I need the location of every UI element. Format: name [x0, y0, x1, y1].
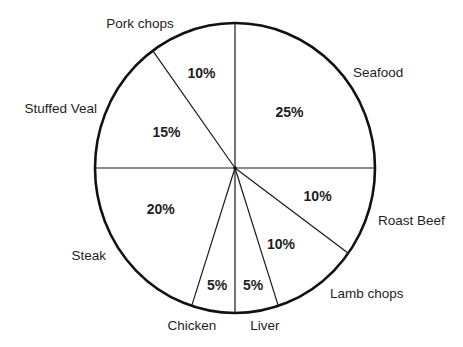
percent-label-pork-chops: 10% [187, 65, 216, 81]
percent-label-steak: 20% [147, 201, 176, 217]
center-point [233, 166, 237, 170]
percent-label-chicken: 5% [207, 277, 228, 293]
category-label-liver: Liver [250, 318, 280, 333]
category-label-chicken: Chicken [168, 318, 217, 333]
category-label-stuffed-veal: Stuffed Veal [24, 101, 97, 116]
pie-chart: 25%10%10%5%5%20%15%10% SeafoodRoast Beef… [0, 0, 463, 347]
percent-label-liver: 5% [243, 277, 264, 293]
percent-label-seafood: 25% [275, 104, 304, 120]
category-label-pork-chops: Pork chops [106, 16, 174, 31]
category-label-lamb-chops: Lamb chops [330, 286, 404, 301]
percent-label-roast-beef: 10% [304, 188, 333, 204]
category-label-roast-beef: Roast Beef [378, 213, 445, 228]
percent-label-lamb-chops: 10% [267, 236, 296, 252]
category-label-steak: Steak [71, 248, 106, 263]
percent-label-stuffed-veal: 15% [152, 124, 181, 140]
category-label-seafood: Seafood [353, 65, 403, 80]
